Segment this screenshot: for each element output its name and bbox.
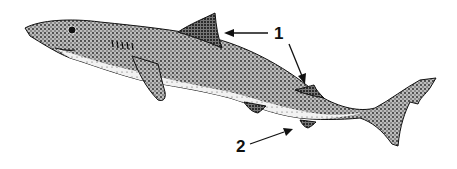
arrow-label-2-to-anal <box>250 128 293 144</box>
shark-eye <box>68 26 76 34</box>
label-2: 2 <box>236 138 245 155</box>
shark-illustration <box>0 0 457 169</box>
arrow-label-1-to-first-dorsal <box>224 29 268 37</box>
shark-body <box>25 20 436 146</box>
label-1: 1 <box>274 25 283 42</box>
anal-fin <box>300 120 316 128</box>
shark-diagram: 1 2 <box>0 0 457 169</box>
